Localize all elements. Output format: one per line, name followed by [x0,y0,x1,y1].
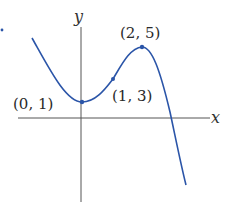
curve-line [32,38,186,185]
stray-dot [1,29,4,32]
point-2-5 [140,45,144,49]
point-1-3 [111,77,115,81]
label-point-0-1: (0, 1) [13,95,53,113]
label-point-2-5: (2, 5) [120,24,160,42]
y-axis-label: y [73,7,84,26]
x-axis-label: x [211,108,220,127]
label-point-1-3: (1, 3) [112,87,152,105]
chart: y x (0, 1) (1, 3) (2, 5) [0,0,231,208]
point-0-1 [80,100,84,104]
